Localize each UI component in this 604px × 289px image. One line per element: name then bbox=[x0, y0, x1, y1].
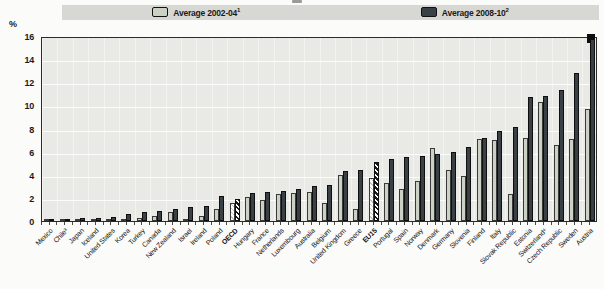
legend-entry-2002-04: Average 2002-041 bbox=[152, 7, 240, 18]
bar-2008-10 bbox=[188, 207, 193, 221]
y-tick-label: 4 bbox=[8, 171, 34, 181]
bar-2008-10 bbox=[466, 147, 471, 221]
bar-2008-10 bbox=[49, 219, 54, 221]
legend-label-2008-10: Average 2008-102 bbox=[442, 7, 509, 18]
chart-figure: Average 2002-041 Average 2008-102 % 0246… bbox=[0, 0, 604, 289]
bar-2008-10 bbox=[281, 191, 286, 221]
bar-2008-10 bbox=[574, 73, 579, 221]
gridline bbox=[42, 61, 596, 62]
y-tick-label: 8 bbox=[8, 125, 34, 135]
bar-2008-10 bbox=[235, 199, 240, 221]
bar-2008-10 bbox=[497, 131, 502, 221]
legend-swatch-2008-10 bbox=[421, 7, 437, 17]
bar-2008-10 bbox=[173, 209, 178, 221]
bar-2008-10 bbox=[65, 219, 70, 221]
bar-2008-10 bbox=[111, 217, 116, 221]
bar-2008-10 bbox=[142, 212, 147, 221]
bar-2008-10 bbox=[374, 162, 379, 221]
y-tick-label: 12 bbox=[8, 78, 34, 88]
bar-2008-10 bbox=[343, 171, 348, 221]
bar-2008-10 bbox=[327, 185, 332, 221]
legend-entry-2008-10: Average 2008-102 bbox=[421, 7, 509, 18]
bar-2008-10 bbox=[420, 156, 425, 221]
bar-2008-10 bbox=[590, 39, 595, 221]
gridline bbox=[42, 107, 596, 108]
bar-2008-10 bbox=[528, 97, 533, 221]
gridline bbox=[42, 84, 596, 85]
bar-2008-10 bbox=[157, 211, 162, 221]
bar-2008-10 bbox=[435, 154, 440, 221]
bar-2008-10 bbox=[312, 186, 317, 221]
bar-2008-10 bbox=[265, 192, 270, 221]
y-axis-unit-label: % bbox=[9, 19, 17, 29]
bar-2008-10 bbox=[80, 218, 85, 221]
bar-2008-10 bbox=[451, 152, 456, 221]
bar-2008-10 bbox=[482, 138, 487, 221]
legend-swatch-2002-04 bbox=[152, 7, 168, 17]
y-tick-label: 10 bbox=[8, 101, 34, 111]
y-tick-label: 0 bbox=[8, 217, 34, 227]
bar-2008-10 bbox=[296, 189, 301, 221]
cropped-title-fragment bbox=[292, 0, 302, 3]
legend-footnote-1: 1 bbox=[237, 7, 240, 13]
bar-2008-10 bbox=[219, 196, 224, 221]
y-tick-label: 14 bbox=[8, 55, 34, 65]
bar-2008-10 bbox=[358, 170, 363, 221]
y-tick-label: 6 bbox=[8, 148, 34, 158]
bar-2008-10 bbox=[250, 193, 255, 221]
y-tick-label: 2 bbox=[8, 194, 34, 204]
bar-2008-10 bbox=[126, 214, 131, 221]
legend-label-2002-04: Average 2002-041 bbox=[173, 7, 240, 18]
bar-2008-10 bbox=[543, 96, 548, 221]
legend-footnote-2: 2 bbox=[506, 7, 509, 13]
bar-2008-10 bbox=[559, 90, 564, 221]
bar-2008-10 bbox=[204, 206, 209, 221]
y-tick-label: 16 bbox=[8, 32, 34, 42]
bar-2008-10 bbox=[389, 159, 394, 221]
bar-2008-10 bbox=[96, 218, 101, 221]
bar-2008-10 bbox=[404, 157, 409, 221]
legend: Average 2002-041 Average 2008-102 bbox=[62, 5, 599, 20]
x-axis-tick-marks bbox=[41, 222, 597, 225]
plot-area bbox=[41, 37, 597, 222]
bar-2008-10 bbox=[513, 127, 518, 221]
